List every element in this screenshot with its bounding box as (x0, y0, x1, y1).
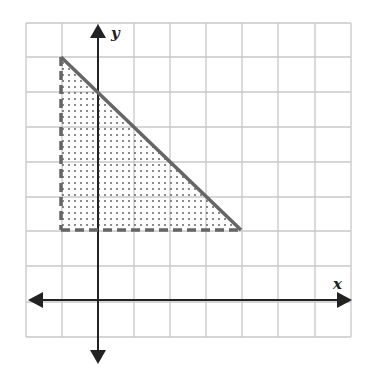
coordinate-graph: y x (0, 0, 369, 384)
y-axis-label: y (110, 24, 121, 42)
x-axis-right-arrow-icon (337, 292, 352, 308)
y-axis-up-arrow-icon (90, 24, 106, 38)
y-axis-down-arrow-icon (90, 350, 106, 364)
x-axis-left-arrow-icon (28, 292, 43, 308)
x-axis-label: x (332, 275, 343, 293)
